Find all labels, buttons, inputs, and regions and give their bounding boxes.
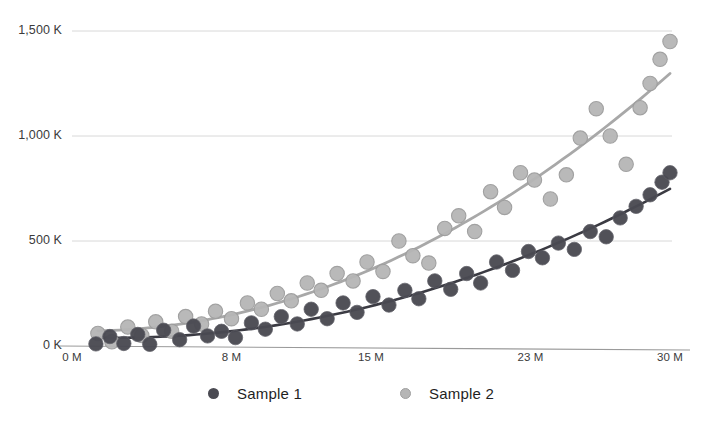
trendlines (96, 73, 670, 337)
x-tick-label: 15 M (341, 351, 401, 363)
x-tick-label: 8 M (201, 351, 261, 363)
x-tick-label: 30 M (640, 351, 700, 363)
legend-label-sample-1: Sample 1 (237, 385, 302, 402)
chart-legend: Sample 1 Sample 2 (0, 378, 702, 408)
legend-item-sample-2[interactable]: Sample 2 (400, 385, 494, 402)
legend-dot-icon-sample-1 (208, 388, 219, 399)
scatter-chart: 0 K500 K1,000 K1,500 K 0 M8 M15 M23 M30 … (0, 0, 702, 423)
legend-dot-icon-sample-2 (400, 388, 411, 399)
x-tick-label: 23 M (500, 351, 560, 363)
y-tick-label: 500 K (29, 233, 62, 247)
x-tick-label: 0 M (42, 351, 102, 363)
y-tick-label: 0 K (43, 338, 62, 352)
y-tick-label: 1,000 K (18, 128, 62, 142)
legend-item-sample-1[interactable]: Sample 1 (208, 385, 302, 402)
y-tick-label: 1,500 K (18, 23, 62, 37)
legend-label-sample-2: Sample 2 (429, 385, 494, 402)
